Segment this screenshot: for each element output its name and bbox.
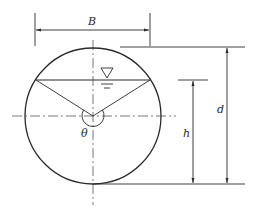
depth-label: h [183,127,190,140]
water-surface-triangle-icon [101,68,113,88]
radius-left [36,80,93,116]
width-label: B [87,15,96,28]
pipe-section-diagram: θ B h d [0,0,255,213]
radius-right [93,80,150,116]
centerlines [12,40,176,205]
diameter-label: d [217,103,224,116]
theta-label: θ [81,127,88,140]
